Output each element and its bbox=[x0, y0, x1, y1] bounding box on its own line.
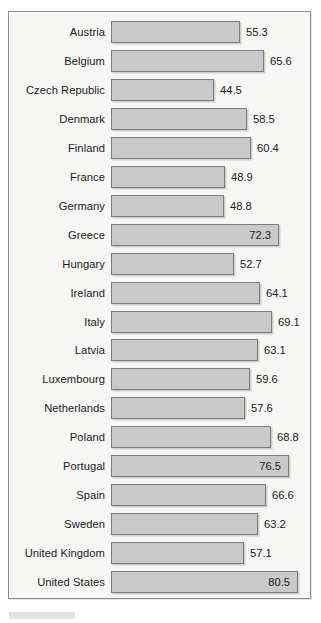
bar-value-label: 48.8 bbox=[230, 195, 252, 217]
bar-value-label: 68.8 bbox=[277, 426, 299, 448]
bar-value-label: 52.7 bbox=[240, 253, 262, 275]
bar-row: Italy69.1 bbox=[9, 311, 310, 333]
bar-row: United Kingdom57.1 bbox=[9, 542, 310, 564]
bar-category-label: United States bbox=[9, 571, 105, 593]
bar-value-label: 57.1 bbox=[250, 542, 272, 564]
bar bbox=[111, 426, 271, 448]
bar bbox=[111, 339, 258, 361]
bar-category-label: Ireland bbox=[9, 282, 105, 304]
bar-value-label: 80.5 bbox=[111, 571, 290, 593]
bar bbox=[111, 513, 258, 535]
bar-row: Denmark58.5 bbox=[9, 108, 310, 130]
bar bbox=[111, 368, 250, 390]
bar bbox=[111, 137, 251, 159]
bar-value-label: 57.6 bbox=[251, 397, 273, 419]
bar-row: Spain66.6 bbox=[9, 484, 310, 506]
bar-category-label: Italy bbox=[9, 311, 105, 333]
bar bbox=[111, 311, 272, 333]
bar-value-label: 69.1 bbox=[278, 311, 300, 333]
bar-value-label: 64.1 bbox=[266, 282, 288, 304]
bar-value-label: 66.6 bbox=[272, 484, 294, 506]
chart-frame: Austria55.3Belgium65.6Czech Republic44.5… bbox=[8, 11, 311, 599]
bar-category-label: Greece bbox=[9, 224, 105, 246]
bar bbox=[111, 50, 264, 72]
bar-row: Austria55.3 bbox=[9, 21, 310, 43]
bar-value-label: 58.5 bbox=[253, 108, 275, 130]
bar bbox=[111, 282, 260, 304]
bar-category-label: Sweden bbox=[9, 513, 105, 535]
bar-value-label: 48.9 bbox=[231, 166, 253, 188]
bar-value-label: 72.3 bbox=[111, 224, 271, 246]
bar bbox=[111, 542, 244, 564]
bar-category-label: France bbox=[9, 166, 105, 188]
bar-value-label: 55.3 bbox=[246, 21, 268, 43]
bar-category-label: Finland bbox=[9, 137, 105, 159]
bar bbox=[111, 166, 225, 188]
bar-value-label: 59.6 bbox=[256, 368, 278, 390]
bar-category-label: Spain bbox=[9, 484, 105, 506]
bar-row: Netherlands57.6 bbox=[9, 397, 310, 419]
bar-value-label: 65.6 bbox=[270, 50, 292, 72]
bar-row: Sweden63.2 bbox=[9, 513, 310, 535]
bar-chart-plot-area: Austria55.3Belgium65.6Czech Republic44.5… bbox=[9, 12, 310, 598]
bar-category-label: Germany bbox=[9, 195, 105, 217]
bar bbox=[111, 195, 224, 217]
bar-row: Hungary52.7 bbox=[9, 253, 310, 275]
bar-row: Germany48.8 bbox=[9, 195, 310, 217]
bar-category-label: Portugal bbox=[9, 455, 105, 477]
bar-category-label: Denmark bbox=[9, 108, 105, 130]
bar-value-label: 44.5 bbox=[220, 79, 242, 101]
bar bbox=[111, 484, 266, 506]
bar-row: Greece72.3 bbox=[9, 224, 310, 246]
bar-category-label: Netherlands bbox=[9, 397, 105, 419]
bar-row: Ireland64.1 bbox=[9, 282, 310, 304]
bar-category-label: Belgium bbox=[9, 50, 105, 72]
bar-row: Finland60.4 bbox=[9, 137, 310, 159]
bar-category-label: Poland bbox=[9, 426, 105, 448]
bar bbox=[111, 253, 234, 275]
bar-value-label: 76.5 bbox=[111, 455, 281, 477]
bar-category-label: Latvia bbox=[9, 339, 105, 361]
bar-category-label: Czech Republic bbox=[9, 79, 105, 101]
bar-row: France48.9 bbox=[9, 166, 310, 188]
bar-category-label: Luxembourg bbox=[9, 368, 105, 390]
bar-value-label: 60.4 bbox=[257, 137, 279, 159]
bottom-strip bbox=[9, 612, 75, 619]
bar-row: Czech Republic44.5 bbox=[9, 79, 310, 101]
bar bbox=[111, 21, 240, 43]
bar bbox=[111, 397, 245, 419]
bar-value-label: 63.2 bbox=[264, 513, 286, 535]
bar-row: Belgium65.6 bbox=[9, 50, 310, 72]
bar-value-label: 63.1 bbox=[264, 339, 286, 361]
bar-row: Latvia63.1 bbox=[9, 339, 310, 361]
bar-category-label: Hungary bbox=[9, 253, 105, 275]
bar bbox=[111, 108, 247, 130]
bar-row: United States80.5 bbox=[9, 571, 310, 593]
bar-row: Poland68.8 bbox=[9, 426, 310, 448]
bar-row: Luxembourg59.6 bbox=[9, 368, 310, 390]
bar bbox=[111, 79, 214, 101]
bar-row: Portugal76.5 bbox=[9, 455, 310, 477]
bar-category-label: Austria bbox=[9, 21, 105, 43]
bar-category-label: United Kingdom bbox=[9, 542, 105, 564]
